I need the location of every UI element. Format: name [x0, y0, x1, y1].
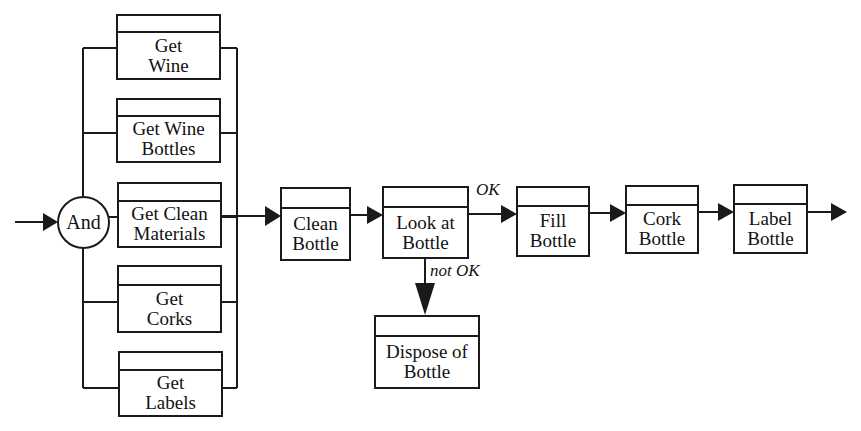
task-get-clean-materials: Get Clean Materials	[117, 182, 222, 248]
task-header	[282, 189, 349, 209]
task-clean-bottle: Clean Bottle	[280, 187, 351, 261]
task-get-labels: Get Labels	[118, 351, 223, 417]
task-dispose-of-bottle: Dispose of Bottle	[374, 315, 480, 389]
task-header	[735, 186, 806, 205]
task-label: Fill Bottle	[518, 207, 588, 255]
task-label: Label Bottle	[735, 205, 806, 252]
task-fill-bottle: Fill Bottle	[516, 186, 590, 257]
task-look-at-bottle: Look at Bottle	[382, 186, 469, 259]
task-label: Get Labels	[120, 371, 221, 415]
process-flow-diagram: And Get Wine Get Wine Bottles Get Clean …	[0, 0, 861, 431]
task-header	[518, 188, 588, 207]
task-label: Cork Bottle	[627, 206, 697, 252]
and-join-node: And	[57, 196, 110, 249]
task-header	[627, 187, 697, 206]
task-header	[118, 100, 219, 117]
task-get-wine-bottles: Get Wine Bottles	[116, 98, 221, 163]
task-label: Get Wine	[118, 33, 219, 78]
task-get-wine: Get Wine	[116, 14, 221, 80]
and-label: And	[66, 211, 100, 234]
edge-label-ok: OK	[476, 180, 500, 200]
task-cork-bottle: Cork Bottle	[625, 185, 699, 254]
task-header	[118, 16, 219, 33]
task-header	[384, 188, 467, 208]
task-header	[376, 317, 478, 337]
task-label-bottle: Label Bottle	[733, 184, 808, 254]
task-label: Clean Bottle	[282, 209, 349, 259]
task-get-corks: Get Corks	[117, 265, 222, 333]
task-label: Look at Bottle	[384, 208, 467, 257]
task-header	[120, 353, 221, 371]
task-header	[119, 267, 220, 286]
task-header	[119, 184, 220, 202]
task-label: Get Wine Bottles	[118, 117, 219, 161]
task-label: Get Clean Materials	[119, 202, 220, 246]
edge-label-not-ok: not OK	[430, 261, 480, 281]
task-label: Dispose of Bottle	[376, 337, 478, 387]
task-label: Get Corks	[119, 286, 220, 331]
